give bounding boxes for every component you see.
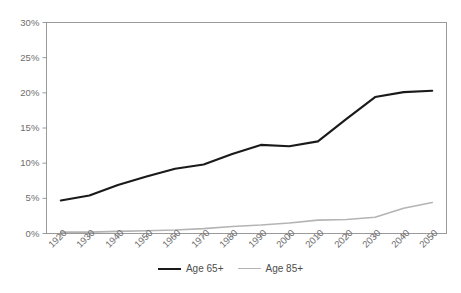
y-axis-tick-label: 30% xyxy=(20,17,39,28)
legend-line-icon-age-85-plus xyxy=(238,268,261,269)
legend-label-age-85-plus: Age 85+ xyxy=(266,263,304,274)
plot-frame xyxy=(47,23,447,234)
y-axis-ticks xyxy=(43,23,47,234)
legend-line-icon-age-65-plus xyxy=(158,268,181,270)
y-axis-tick-label: 15% xyxy=(20,122,39,133)
legend-item-age-85-plus[interactable]: Age 85+ xyxy=(238,263,304,274)
y-axis-tick-label: 5% xyxy=(26,192,40,203)
series-lines xyxy=(61,91,432,232)
chart-container: 0%5%10%15%20%25%30% 19201930194019501960… xyxy=(0,0,461,293)
legend-item-age-65-plus[interactable]: Age 65+ xyxy=(158,263,224,274)
y-axis-tick-label: 20% xyxy=(20,87,39,98)
chart-legend: Age 65+ Age 85+ xyxy=(0,263,461,274)
y-axis-tick-label: 25% xyxy=(20,52,39,63)
line-chart-plot xyxy=(0,0,461,293)
legend-label-age-65-plus: Age 65+ xyxy=(186,263,224,274)
y-axis-tick-label: 0% xyxy=(26,228,40,239)
y-axis-tick-label: 10% xyxy=(20,157,39,168)
